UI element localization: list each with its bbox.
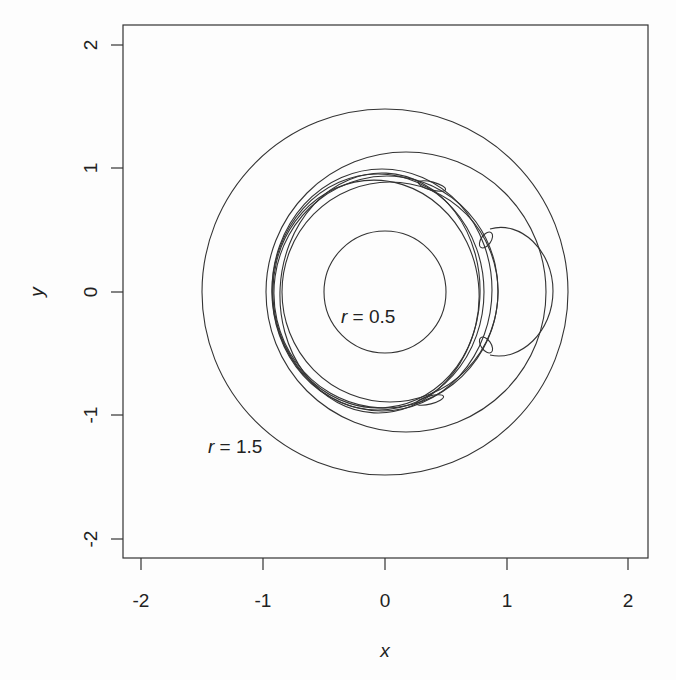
y-tick-label: 2 (80, 40, 101, 51)
annotation-r-1-5: r = 1.5 (208, 436, 262, 457)
circle-r-0-5 (324, 231, 446, 353)
y-tick-label: -2 (80, 531, 101, 548)
orbit-loop (259, 162, 513, 423)
y-tick-label: -1 (80, 407, 101, 424)
outer-trajectory-circle (266, 152, 546, 432)
y-tick-label: 1 (80, 163, 101, 174)
y-tick-label: 0 (80, 287, 101, 298)
x-tick-label: 2 (623, 590, 634, 611)
x-axis-ticks (141, 558, 628, 570)
circle-r-1-5 (202, 109, 568, 475)
y-axis-label: y (26, 286, 47, 299)
trajectory-plot: 2 1 0 -1 -2 -2 -1 0 1 2 x y (0, 0, 676, 680)
x-tick-label: 0 (380, 590, 391, 611)
x-axis-label: x (379, 640, 391, 661)
right-lobe (490, 227, 553, 356)
plot-series (202, 109, 568, 475)
x-tick-label: -1 (255, 590, 272, 611)
y-axis-ticks (111, 45, 123, 539)
x-tick-label: 1 (502, 590, 513, 611)
chart-root: 2 1 0 -1 -2 -2 -1 0 1 2 x y (0, 0, 676, 680)
orbit-loop (262, 170, 491, 418)
x-tick-label: -2 (133, 590, 150, 611)
annotation-r-0-5: r = 0.5 (341, 306, 395, 327)
